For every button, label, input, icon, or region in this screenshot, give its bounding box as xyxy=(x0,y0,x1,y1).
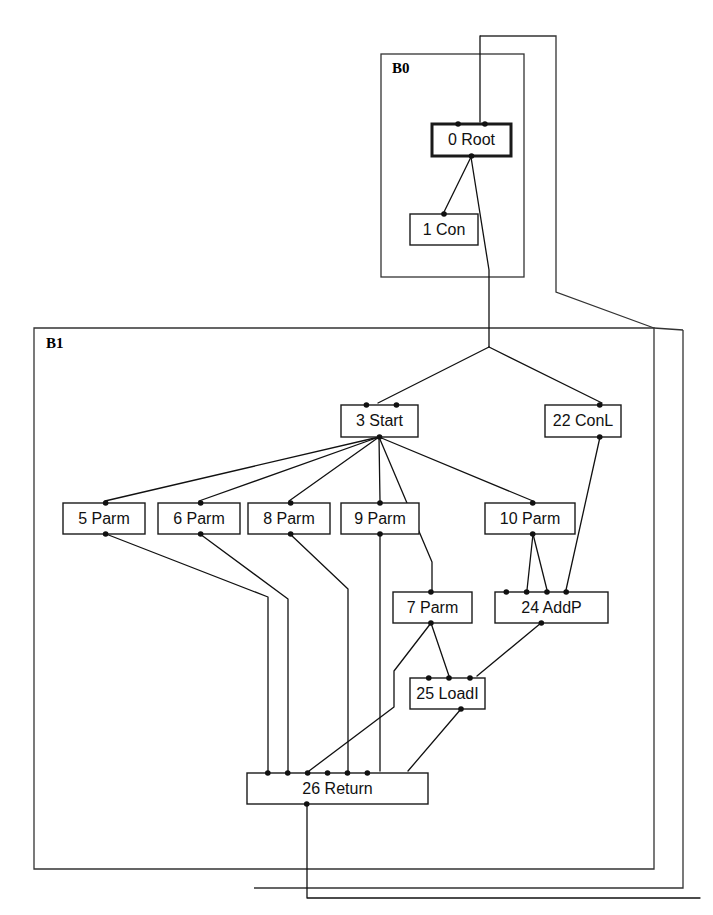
node-5-in-port-1[interactable] xyxy=(103,500,109,506)
node-26[interactable]: 26 Return xyxy=(247,770,428,807)
node-26-in-port-1[interactable] xyxy=(265,770,271,776)
edge-parm10-to-addp-b xyxy=(533,534,547,590)
node-5[interactable]: 5 Parm xyxy=(63,500,145,537)
outer-boundary-corner-link xyxy=(654,328,683,330)
node-label-22: 22 ConL xyxy=(553,412,614,429)
node-label-8: 8 Parm xyxy=(263,510,315,527)
node-label-1: 1 Con xyxy=(423,221,466,238)
node-5-out-port-1[interactable] xyxy=(103,531,109,537)
edge-layer xyxy=(105,36,700,898)
node-label-9: 9 Parm xyxy=(354,510,406,527)
node-24-in-port-2[interactable] xyxy=(524,589,530,595)
node-7-out-port-1[interactable] xyxy=(428,620,434,626)
node-10-out-port-1[interactable] xyxy=(530,531,536,537)
node-3-in-port-1[interactable] xyxy=(364,402,370,408)
outer-boundary-path xyxy=(480,36,654,328)
block-b1-label: B1 xyxy=(46,335,64,351)
edge-parm6-to-return xyxy=(200,534,288,771)
ideal-graph-canvas: B0 B1 xyxy=(0,0,713,915)
node-24-in-port-1[interactable] xyxy=(504,589,510,595)
node-24[interactable]: 24 AddP xyxy=(495,589,608,626)
node-label-10: 10 Parm xyxy=(500,510,560,527)
node-26-in-port-3[interactable] xyxy=(305,770,311,776)
node-0-in-port-1[interactable] xyxy=(455,121,461,127)
edge-root-to-con xyxy=(444,157,471,212)
node-label-24: 24 AddP xyxy=(521,599,582,616)
node-9-in-port-1[interactable] xyxy=(377,500,383,506)
node-1[interactable]: 1 Con xyxy=(410,211,478,245)
node-label-25: 25 LoadI xyxy=(416,685,478,702)
node-8-out-port-1[interactable] xyxy=(288,531,294,537)
edge-junction-to-conl xyxy=(489,347,602,403)
edge-return-to-exit xyxy=(307,805,700,898)
node-label-6: 6 Parm xyxy=(173,510,225,527)
node-label-26: 26 Return xyxy=(302,780,372,797)
node-0-in-port-2[interactable] xyxy=(482,121,488,127)
node-7[interactable]: 7 Parm xyxy=(393,589,472,626)
node-3[interactable]: 3 Start xyxy=(341,402,418,440)
edge-parm8-to-return xyxy=(290,534,348,771)
node-25-in-port-3[interactable] xyxy=(467,675,473,681)
node-3-in-port-2[interactable] xyxy=(394,402,400,408)
node-10-in-port-1[interactable] xyxy=(530,500,536,506)
node-26-in-port-5[interactable] xyxy=(345,770,351,776)
node-7-in-port-1[interactable] xyxy=(428,589,434,595)
node-9-out-port-1[interactable] xyxy=(377,531,383,537)
edge-root-to-junction xyxy=(471,157,489,347)
node-24-out-port-1[interactable] xyxy=(539,620,545,626)
node-25-out-port-1[interactable] xyxy=(458,706,464,712)
node-1-in-port-1[interactable] xyxy=(441,211,447,217)
node-26-out-port-1[interactable] xyxy=(304,801,310,807)
block-b0-label: B0 xyxy=(392,60,410,76)
node-26-in-port-6[interactable] xyxy=(365,770,371,776)
node-25-in-port-2[interactable] xyxy=(446,675,452,681)
node-26-in-port-2[interactable] xyxy=(285,770,291,776)
node-9[interactable]: 9 Parm xyxy=(341,500,419,537)
edge-parm7-to-loadi xyxy=(431,623,449,676)
node-10[interactable]: 10 Parm xyxy=(485,500,575,537)
edge-addp-to-loadi xyxy=(477,623,541,676)
edge-junction-to-start xyxy=(378,347,489,403)
edge-start-to-parm8 xyxy=(289,437,379,501)
node-22-out-port-1[interactable] xyxy=(597,434,603,440)
node-label-0: 0 Root xyxy=(448,131,496,148)
node-6[interactable]: 6 Parm xyxy=(158,500,240,537)
node-22[interactable]: 22 ConL xyxy=(545,402,621,440)
edge-start-to-parm6 xyxy=(199,437,379,501)
edge-loadi-to-return xyxy=(408,709,461,771)
node-22-in-port-1[interactable] xyxy=(597,402,603,408)
node-26-in-port-4[interactable] xyxy=(325,770,331,776)
node-label-3: 3 Start xyxy=(356,412,404,429)
node-8[interactable]: 8 Parm xyxy=(248,500,330,537)
edge-start-to-parm9 xyxy=(379,437,380,501)
node-label-5: 5 Parm xyxy=(78,510,130,527)
node-8-in-port-1[interactable] xyxy=(288,500,294,506)
node-25-in-port-1[interactable] xyxy=(426,675,432,681)
node-24-in-port-3[interactable] xyxy=(544,589,550,595)
edge-start-to-parm5 xyxy=(105,437,379,501)
node-25[interactable]: 25 LoadI xyxy=(410,675,485,712)
node-label-7: 7 Parm xyxy=(407,599,459,616)
node-3-out-port-1[interactable] xyxy=(377,434,383,440)
node-0[interactable]: 0 Root xyxy=(432,121,511,159)
edge-parm10-to-addp-a xyxy=(527,534,533,590)
node-6-out-port-1[interactable] xyxy=(198,531,204,537)
node-6-in-port-1[interactable] xyxy=(198,500,204,506)
edge-parm5-to-return xyxy=(106,534,268,771)
node-0-out-port-1[interactable] xyxy=(469,153,475,159)
node-24-in-port-4[interactable] xyxy=(563,589,569,595)
